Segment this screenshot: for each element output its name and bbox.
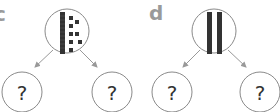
- unknown-c-left[interactable]: ?: [12, 83, 32, 103]
- arrow-left-d: [183, 50, 200, 67]
- arrow-right-d: [228, 50, 246, 67]
- unknown-d-left[interactable]: ?: [162, 83, 182, 103]
- whole-circle-c: [45, 9, 89, 53]
- unknown-d-right[interactable]: ?: [250, 83, 270, 103]
- arrow-right-c: [80, 50, 97, 67]
- number-bond-diagrams: [0, 0, 280, 112]
- ten-rod-icon: [60, 12, 65, 54]
- whole-circle-d: [192, 9, 236, 53]
- unknown-c-right[interactable]: ?: [102, 83, 122, 103]
- arrow-left-c: [35, 50, 53, 67]
